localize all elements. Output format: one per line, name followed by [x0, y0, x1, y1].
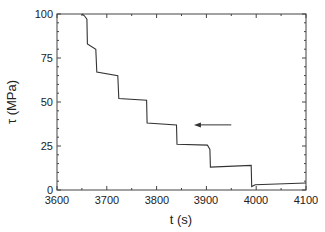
plot-frame — [57, 14, 306, 190]
axis-ticks — [57, 14, 306, 190]
x-tick-label: 3600 — [45, 194, 69, 206]
x-tick-label: 4100 — [294, 194, 318, 206]
x-tick-label: 3900 — [194, 194, 218, 206]
y-tick-labels: 0 25 50 75 100 — [35, 8, 53, 196]
arrow-head-icon — [194, 122, 201, 127]
y-tick-label: 25 — [41, 140, 53, 152]
x-tick-label: 3700 — [95, 194, 119, 206]
y-tick-label: 75 — [41, 52, 53, 64]
y-tick-label: 100 — [35, 8, 53, 20]
stress-time-chart: 0 25 50 75 100 3600 3700 3800 3900 4000 … — [0, 0, 325, 232]
x-tick-label: 4000 — [244, 194, 268, 206]
stress-curve — [82, 14, 306, 187]
y-tick-label: 50 — [41, 96, 53, 108]
x-axis-label: t (s) — [170, 212, 192, 227]
y-axis-label: τ (MPa) — [4, 80, 19, 124]
x-tick-labels: 3600 3700 3800 3900 4000 4100 — [45, 194, 318, 206]
x-tick-label: 3800 — [145, 194, 169, 206]
arrow-annotation — [194, 122, 231, 127]
